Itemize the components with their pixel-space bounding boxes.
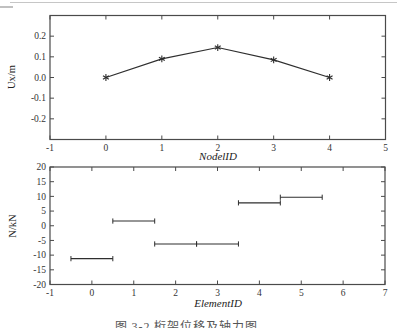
y-tick-label: 15	[37, 177, 47, 187]
scanned-figure-page: -1012345-0.2-0.10.00.10.2-101234567-20-1…	[0, 0, 399, 328]
y-tick-label: 0.2	[34, 31, 46, 41]
y-tick-label: 5	[41, 206, 46, 216]
y-tick-label: -0.1	[31, 93, 46, 103]
y-tick-label: -15	[33, 265, 46, 275]
x-tick-label: 7	[383, 288, 388, 298]
x-tick-label: -1	[46, 288, 54, 298]
y-tick-label: -5	[38, 236, 46, 246]
x-tick-label: 5	[299, 288, 304, 298]
bottom-plot-ylabel: N/kN	[7, 191, 23, 261]
y-tick-label: 10	[37, 192, 47, 202]
x-tick-label: 3	[215, 288, 220, 298]
top-plot-xlabel: NodelID	[36, 150, 399, 164]
displacement-curve	[106, 48, 330, 78]
x-tick-label: 4	[257, 288, 262, 298]
top-plot-ylabel: Ux/m	[6, 42, 22, 112]
y-tick-label: 0.1	[34, 52, 46, 62]
plot-frame	[50, 167, 385, 285]
x-tick-label: 0	[90, 288, 95, 298]
y-tick-label: -20	[33, 280, 46, 290]
y-tick-label: 0.0	[34, 73, 46, 83]
bottom-plot-xlabel: ElementID	[36, 297, 399, 311]
truss-plots-svg: -1012345-0.2-0.10.00.10.2-101234567-20-1…	[0, 0, 399, 328]
plot-frame	[50, 16, 386, 140]
x-tick-label: 1	[131, 288, 136, 298]
figure-caption: 图 3-2 桁架位移及轴力图	[0, 321, 386, 328]
x-tick-label: 6	[341, 288, 346, 298]
x-tick-label: 2	[173, 288, 178, 298]
y-tick-label: -0.2	[31, 114, 46, 124]
y-tick-label: 0	[41, 221, 46, 231]
y-tick-label: -10	[33, 250, 46, 260]
